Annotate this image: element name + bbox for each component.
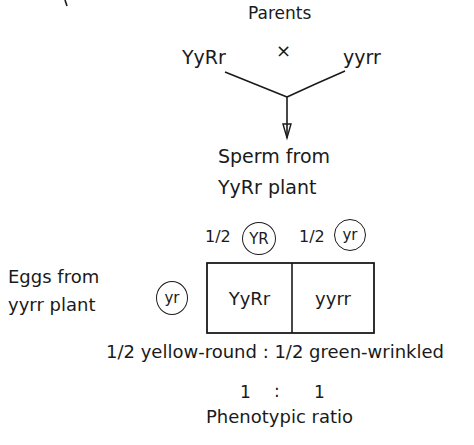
- eggs-label-line2: yyrr plant: [8, 296, 95, 314]
- sperm-label-line2: YyRr plant: [218, 178, 316, 197]
- sperm-gamete-circle-1: YR: [242, 222, 276, 255]
- sperm-label-line1: Sperm from: [218, 147, 330, 166]
- punnett-cell-2-text: yyrr: [315, 288, 351, 309]
- ratio-label: Phenotypic ratio: [206, 408, 353, 426]
- punnett-cell-2: yyrr: [292, 263, 374, 333]
- parents-label: Parents: [248, 5, 311, 22]
- sperm-gamete-2: yr: [342, 226, 357, 244]
- cross-symbol: ×: [276, 42, 291, 60]
- ratio-left: 1: [240, 384, 251, 401]
- punnett-cell-1-text: YyRr: [229, 288, 271, 309]
- left-parent-line: [225, 72, 287, 97]
- connector-lines: [0, 0, 474, 445]
- sperm-gamete-1: YR: [249, 230, 269, 248]
- egg-gamete-circle: yr: [156, 281, 188, 315]
- sperm-gamete-circle-2: yr: [334, 219, 366, 251]
- sperm-fraction-2: 1/2: [299, 229, 325, 245]
- ratio-separator: :: [274, 383, 280, 400]
- parent-right-genotype: yyrr: [343, 48, 381, 67]
- parent-left-genotype: YyRr: [182, 48, 226, 67]
- egg-gamete: yr: [164, 289, 179, 307]
- eggs-label-line1: Eggs from: [8, 268, 99, 286]
- ratio-right: 1: [314, 384, 325, 401]
- sperm-fraction-1: 1/2: [205, 229, 231, 245]
- phenotype-line: 1/2 yellow-round : 1/2 green-wrinkled: [106, 343, 444, 361]
- right-parent-line: [287, 71, 345, 97]
- punnett-cell-1: YyRr: [207, 263, 292, 333]
